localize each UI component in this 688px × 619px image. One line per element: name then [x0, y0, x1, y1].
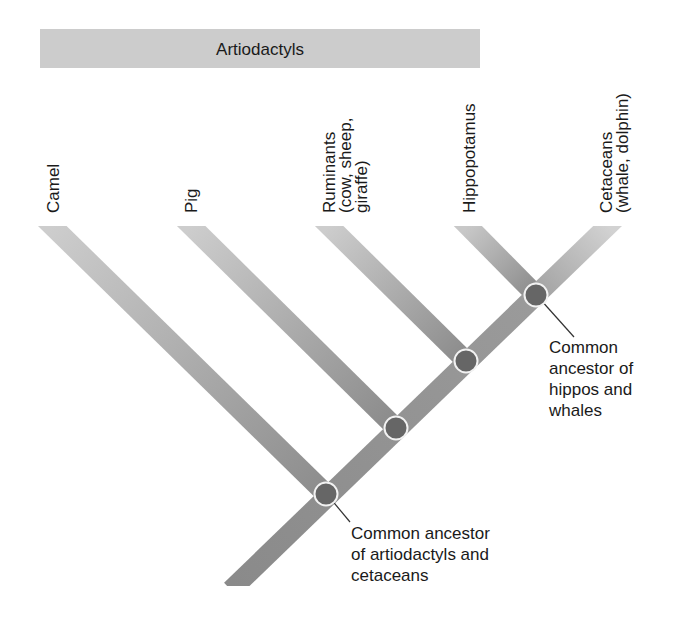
annotation-line: hippos and	[549, 380, 632, 399]
branch-camel	[40, 214, 326, 494]
annotation-line: cetaceans	[351, 566, 429, 585]
artiodactyls-banner: Artiodactyls	[40, 29, 480, 68]
taxon-label-cetaceans: Cetaceans (whale, dolphin)	[597, 93, 632, 213]
taxon-label-line: Camel	[44, 164, 63, 213]
branch-hippopotamus	[456, 214, 536, 295]
taxon-label-line: Pig	[182, 188, 201, 213]
taxon-label-ruminants: Ruminants (cow, sheep, giraffe)	[320, 118, 371, 213]
phylogenetic-tree: Artiodactyls Camel Pig Ruminants (cow, s…	[0, 0, 688, 619]
pointer-line-hippo-whale	[540, 299, 574, 337]
banner-label: Artiodactyls	[216, 40, 304, 59]
taxon-label-camel: Camel	[44, 164, 63, 213]
taxon-label-line: (whale, dolphin)	[613, 93, 632, 213]
annotation-artio-cet: Common ancestor of artiodactyls and ceta…	[351, 524, 490, 585]
trunk-end-mask	[200, 586, 280, 606]
annotation-line: Common ancestor	[351, 524, 490, 543]
annotation-line: whales	[548, 401, 602, 420]
taxon-label-hippopotamus: Hippopotamus	[460, 103, 479, 213]
annotation-hippo-whale: Common ancestor of hippos and whales	[548, 338, 633, 420]
annotation-line: of artiodactyls and	[351, 545, 489, 564]
node-pig-split	[385, 417, 408, 440]
branch-ruminants	[317, 214, 466, 361]
taxon-label-line: Hippopotamus	[460, 103, 479, 213]
taxon-label-pig: Pig	[182, 188, 201, 213]
annotation-line: ancestor of	[549, 359, 633, 378]
node-common-ancestor-hippos-whales	[525, 284, 548, 307]
branches	[40, 214, 620, 590]
taxon-label-line: giraffe)	[352, 160, 371, 213]
annotation-line: Common	[549, 338, 618, 357]
node-common-ancestor-artiodactyls-cetaceans	[315, 483, 338, 506]
node-ruminants-split	[455, 350, 478, 373]
